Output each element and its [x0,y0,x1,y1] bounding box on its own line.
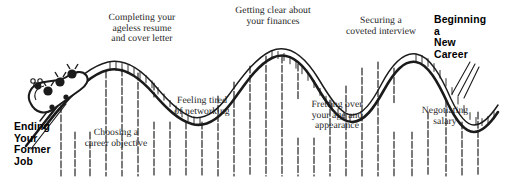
caption-securing-coveted-interview: Securing a coveted interview [326,16,436,37]
caption-getting-clear-about-finances: Getting clear about your finances [212,6,334,27]
caption-ageless-resume: Completing your ageless resume and cover… [78,13,206,45]
end-label-leader [452,62,479,98]
coaster-car [29,64,88,112]
caption-choosing-career-objective: Choosing a career objective [60,128,172,149]
illustration-canvas: Ending Your Former Job Beginning a New C… [0,0,512,186]
caption-feeling-tired-of-networking: Feeling tired of networking [144,96,260,117]
end-label-beginning-new-career: Beginning a New Career [434,14,508,60]
caption-negotiating-salary: Negotiating salary [394,106,496,127]
caption-fretting-over-age-and-appearance: Fretting over your age and appearance [284,100,390,132]
